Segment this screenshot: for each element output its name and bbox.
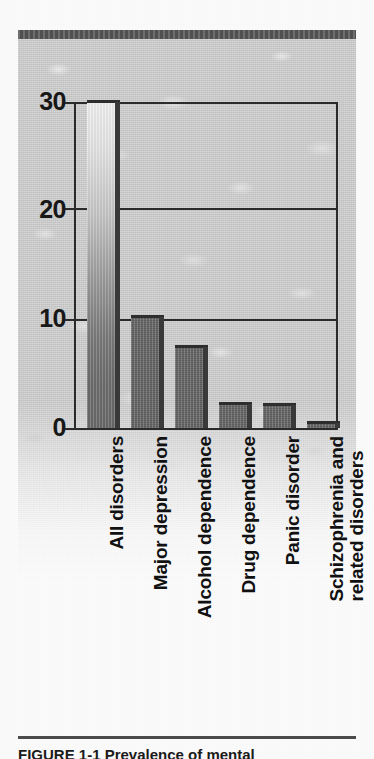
bar-drug-dependence[interactable] — [219, 404, 247, 428]
bar-fill — [131, 317, 159, 428]
x-axis-category-labels: All disorders Major depression Alcohol d… — [74, 436, 338, 676]
bar-panic-disorder[interactable] — [263, 405, 291, 428]
category-label-line: All disorders — [106, 436, 127, 550]
bar-shadow — [247, 404, 252, 428]
tick-mark-0 — [65, 428, 74, 430]
bar-fill — [175, 347, 203, 429]
category-label-line: Alcohol dependence — [194, 436, 215, 618]
y-axis-line — [74, 102, 76, 428]
bar-alcohol-dependence[interactable] — [175, 347, 203, 429]
plot-area — [74, 102, 338, 428]
tick-mark-20 — [65, 208, 74, 210]
axis-baseline-0 — [74, 428, 338, 430]
y-tick-label-20: 20 — [18, 197, 66, 222]
category-label-line: Major depression — [150, 436, 171, 590]
bar-schizophrenia-and-related-disorders[interactable] — [307, 423, 335, 428]
category-label-drug-dependence: Drug dependence — [239, 436, 259, 593]
category-label-line: Panic disorder — [282, 436, 303, 565]
category-label-schizophrenia-and-related-disorders: Schizophrenia and related disorders — [327, 436, 367, 602]
category-label-line: Drug dependence — [238, 436, 259, 593]
plate-top-edge-band — [18, 30, 356, 39]
y-tick-label-30: 30 — [18, 89, 66, 114]
bar-fill — [87, 102, 115, 428]
bar-all-disorders[interactable] — [87, 102, 115, 428]
category-label-all-disorders: All disorders — [107, 436, 127, 550]
category-label-line: related disorders — [347, 436, 367, 602]
bar-shadow — [335, 423, 340, 428]
figure-caption: FIGURE 1-1 Prevalence of mental — [18, 746, 358, 759]
category-label-major-depression: Major depression — [151, 436, 171, 590]
y-tick-label-10: 10 — [18, 306, 66, 331]
bar-fill — [263, 405, 291, 428]
caption-divider-rule — [18, 736, 356, 739]
bar-fill — [219, 404, 247, 428]
bar-shadow — [203, 347, 208, 429]
y-tick-label-0: 0 — [18, 415, 66, 440]
plot-right-border — [336, 102, 338, 428]
bar-major-depression[interactable] — [131, 317, 159, 428]
category-label-alcohol-dependence: Alcohol dependence — [195, 436, 215, 618]
scanned-page: 30 20 10 0 — [0, 0, 374, 759]
category-label-line: Schizophrenia and — [327, 436, 347, 602]
tick-mark-30 — [65, 102, 74, 104]
bar-shadow — [115, 102, 120, 428]
category-label-panic-disorder: Panic disorder — [283, 436, 303, 565]
bar-shadow — [159, 317, 164, 428]
bar-shadow — [291, 405, 296, 428]
tick-mark-10 — [65, 319, 74, 321]
